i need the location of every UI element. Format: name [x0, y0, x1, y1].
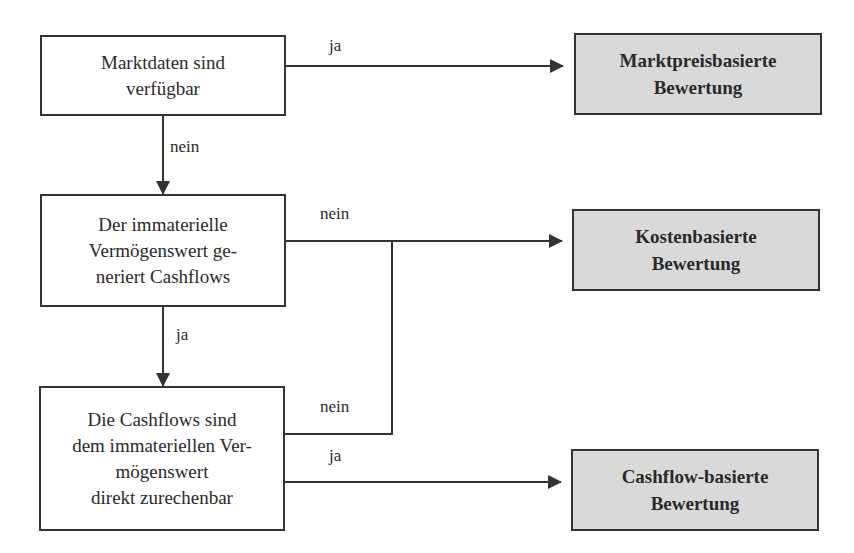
edge-label-d3-o2: nein	[320, 397, 349, 417]
outcome-market-price-valuation: Marktpreisbasierte Bewertung	[574, 33, 822, 115]
decision-market-data-available: Marktdaten sind verfügbar	[40, 35, 286, 116]
outcome-cost-valuation: Kostenbasierte Bewertung	[572, 209, 820, 291]
outcome-text: Kostenbasierte Bewertung	[635, 223, 756, 277]
decision-text: Marktdaten sind verfügbar	[101, 50, 225, 102]
edge-label-d3-o3: ja	[329, 446, 341, 466]
decision-cashflows-attributable: Die Cashflows sind dem immateriellen Ver…	[39, 386, 285, 531]
edge-label-d1-o1: ja	[329, 36, 341, 56]
decision-text: Der immaterielle Vermögenswert ge- nerie…	[89, 212, 237, 290]
edge-label-d2-d3: ja	[176, 325, 188, 345]
edge-label-d2-o2: nein	[320, 204, 349, 224]
outcome-cashflow-valuation: Cashflow-basierte Bewertung	[571, 449, 819, 531]
decision-generates-cashflows: Der immaterielle Vermögenswert ge- nerie…	[40, 194, 286, 307]
outcome-text: Cashflow-basierte Bewertung	[622, 463, 769, 517]
decision-text: Die Cashflows sind dem immateriellen Ver…	[72, 407, 252, 511]
edge-label-d1-d2: nein	[170, 137, 199, 157]
outcome-text: Marktpreisbasierte Bewertung	[620, 47, 777, 101]
